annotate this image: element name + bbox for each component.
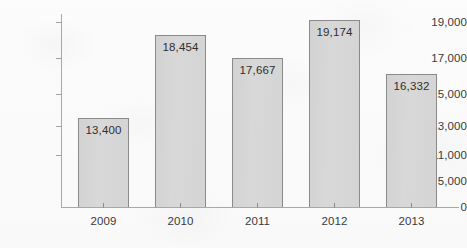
x-tick-label-2011: 2011 — [245, 215, 270, 227]
x-tick-mark-2013 — [411, 203, 412, 208]
bar-value-2010: 18,454 — [163, 41, 199, 53]
y-tick-mark-13000 — [56, 126, 62, 127]
y-tick-label-19000: 19,000 — [415, 16, 467, 28]
y-tick-mark-19000 — [56, 22, 62, 23]
bar-2011 — [232, 58, 283, 207]
x-tick-mark-2011 — [257, 203, 258, 208]
y-tick-mark-15000 — [56, 94, 62, 95]
bar-2010 — [155, 35, 206, 207]
y-tick-label-17000: 17,000 — [415, 52, 467, 64]
bar-value-2013: 16,332 — [394, 80, 430, 92]
bar-2013 — [386, 74, 437, 207]
x-axis-line — [61, 207, 459, 208]
x-tick-label-2010: 2010 — [168, 215, 194, 227]
x-tick-label-2009: 2009 — [91, 215, 117, 227]
x-tick-mark-2012 — [334, 203, 335, 208]
x-tick-mark-2009 — [103, 203, 104, 208]
bar-value-2009: 13,400 — [86, 124, 122, 136]
x-tick-label-2013: 2013 — [399, 215, 425, 227]
x-tick-label-2012: 2012 — [322, 215, 348, 227]
bar-chart-screenshot: 19,000 17,000 15,000 13,000 11,000 5,000… — [0, 0, 467, 248]
y-tick-mark-11000 — [56, 155, 62, 156]
x-tick-mark-2010 — [180, 203, 181, 208]
y-tick-mark-17000 — [56, 58, 62, 59]
bar-2012 — [309, 20, 360, 207]
y-axis-line — [61, 14, 62, 207]
bar-value-2011: 17,667 — [240, 64, 276, 76]
chart-plot-area: 19,000 17,000 15,000 13,000 11,000 5,000… — [0, 0, 467, 248]
bar-value-2012: 19,174 — [317, 26, 353, 38]
